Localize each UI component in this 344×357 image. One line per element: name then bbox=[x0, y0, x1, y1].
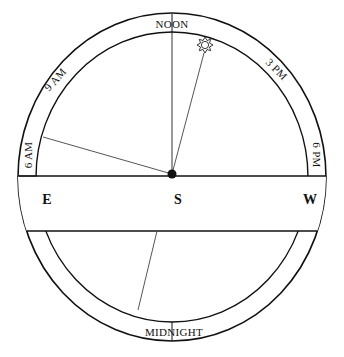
center-dot bbox=[168, 170, 177, 179]
noon-label: NOON bbox=[156, 18, 189, 30]
south-label: S bbox=[174, 192, 182, 207]
six-am-label: 6 AM bbox=[22, 142, 34, 169]
sun-icon bbox=[197, 37, 213, 53]
west-label: W bbox=[303, 192, 317, 207]
sun-path-diagram: NOON 9 AM 3 PM 6 AM 6 PM MIDNIGHT E S W bbox=[0, 0, 344, 357]
three-pm-label: 3 PM bbox=[264, 56, 290, 82]
sun-ray bbox=[172, 53, 204, 174]
six-pm-label: 6 PM bbox=[311, 142, 323, 167]
sunrise-ray bbox=[43, 137, 172, 174]
midnight-label: MIDNIGHT bbox=[145, 326, 203, 338]
east-label: E bbox=[42, 192, 51, 207]
night-ray bbox=[138, 231, 157, 310]
